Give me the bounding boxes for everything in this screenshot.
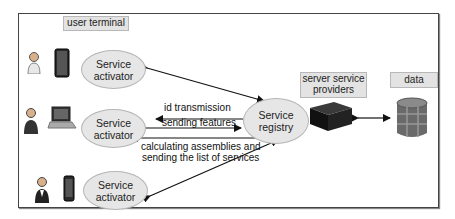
service-activator-middle: Service activator [81, 109, 146, 148]
activator-top-line2: activator [94, 70, 134, 82]
smartphone-icon [63, 175, 75, 202]
service-registry: Service registry [243, 98, 309, 144]
user-terminal-label: user terminal [63, 16, 129, 31]
male-user-icon [23, 106, 39, 134]
edge-label-sending-features: sending features [162, 117, 236, 128]
server-service-providers-label: server service providers [300, 72, 367, 98]
service-activator-bottom: Service activator [83, 171, 148, 210]
activator-bottom-line2: activator [96, 191, 136, 203]
server-icon [306, 98, 354, 132]
activator-bottom-line1: Service [96, 179, 136, 191]
female-user-icon [26, 50, 42, 74]
tablet-icon [54, 48, 70, 78]
data-label: data [390, 72, 438, 88]
edge-label-id-transmission: id transmission [164, 102, 231, 113]
server-label-line2: providers [301, 84, 366, 95]
edge-label-calculating-line2: sending the list of services [142, 152, 259, 163]
registry-line1: Service [258, 109, 293, 121]
registry-line2: registry [258, 121, 293, 133]
server-label-line1: server service [301, 73, 366, 84]
activator-top-line1: Service [94, 58, 134, 70]
database-icon [395, 97, 429, 139]
female-user-icon [34, 175, 50, 203]
edge-label-calculating-line1: calculating assemblies and [141, 141, 261, 152]
laptop-icon [47, 106, 77, 130]
service-activator-top: Service activator [81, 50, 146, 89]
activator-middle-line2: activator [94, 129, 134, 141]
activator-middle-line1: Service [94, 117, 134, 129]
